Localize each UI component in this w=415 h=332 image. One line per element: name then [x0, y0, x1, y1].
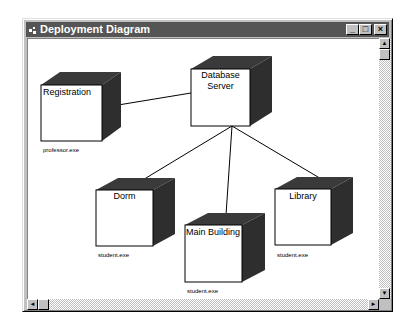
node-registration[interactable] [41, 72, 121, 141]
connector-registration-database[interactable] [112, 93, 191, 106]
connector-database-library[interactable] [232, 126, 323, 180]
node-label-library: Library [275, 191, 331, 202]
artifact-label-dorm: student.exe [98, 252, 129, 258]
node-label-dorm: Dorm [96, 191, 153, 202]
artifact-label-library: student.exe [277, 252, 308, 258]
connector-database-dorm[interactable] [141, 126, 232, 181]
node-label-line: Database [191, 70, 250, 81]
node-main-building[interactable] [185, 213, 265, 282]
deployment-diagram [0, 0, 415, 332]
node-label-main-building: Main Building [186, 227, 246, 238]
node-label-registration: Registration [43, 87, 101, 98]
node-label-line: Server [191, 81, 250, 92]
connector-database-main-building[interactable] [226, 126, 232, 215]
artifact-label-registration: professor.exe [43, 147, 79, 153]
artifact-label-main-building: student.exe [187, 288, 218, 294]
node-library[interactable] [275, 177, 353, 245]
node-label-database-server: Database Server [191, 70, 250, 92]
node-dorm[interactable] [96, 178, 175, 246]
node-side-face [242, 213, 265, 282]
